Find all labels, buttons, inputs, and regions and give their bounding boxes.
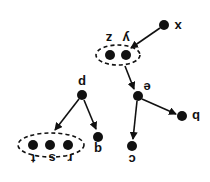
node-label-t: t (30, 151, 35, 166)
node-label-c: c (128, 152, 135, 167)
edge-e-to-b (142, 99, 176, 114)
edge-e-to-c (133, 101, 137, 139)
edge-p-to-q (84, 100, 96, 129)
node-label-y: y (122, 31, 130, 46)
node-x (159, 20, 169, 30)
diagram-svg: xyzebcpqrst (0, 0, 210, 182)
node-label-r: r (67, 151, 72, 166)
edge-p-to-rst-group (55, 99, 79, 130)
node-label-z: z (105, 31, 112, 46)
node-q (93, 132, 103, 142)
node-z (105, 50, 115, 60)
edge-yz-group-to-e (125, 66, 134, 89)
node-label-q: q (94, 142, 102, 157)
node-labels: xyzebcpqrst (30, 19, 200, 167)
node-e (133, 91, 143, 101)
node-r (63, 140, 73, 150)
node-s (45, 140, 55, 150)
node-p (77, 90, 87, 100)
node-b (177, 111, 187, 121)
node-label-p: p (78, 75, 86, 90)
edges (55, 28, 176, 139)
node-y (121, 50, 131, 60)
node-t (28, 140, 38, 150)
node-label-e: e (143, 80, 150, 95)
yz-group-ellipse (96, 45, 140, 65)
node-label-s: s (48, 151, 55, 166)
edge-x-to-yz-group (131, 28, 160, 48)
node-groups (18, 45, 140, 157)
tree-diagram: xyzebcpqrst (0, 0, 210, 182)
node-c (127, 141, 137, 151)
node-label-x: x (174, 19, 182, 34)
node-label-b: b (192, 109, 200, 124)
